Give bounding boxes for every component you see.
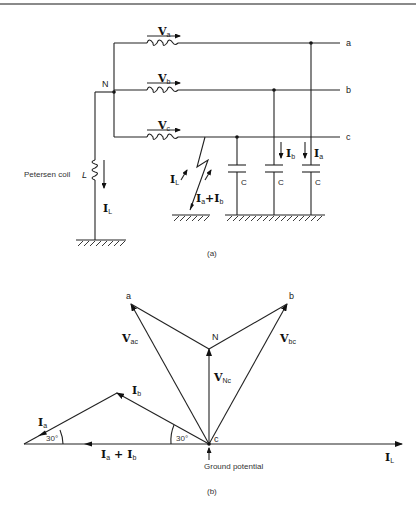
capacitor-2-label: C <box>278 178 284 187</box>
il-label: IL <box>385 451 394 464</box>
caption-b: (b) <box>207 487 217 496</box>
phase-a-label: a <box>346 38 351 48</box>
n-to-a-line <box>131 304 209 349</box>
angle-right-label: 30° <box>176 434 188 443</box>
coil-current-label: IL <box>103 202 112 215</box>
vac-label: Vac <box>121 332 138 345</box>
angle-arc-right <box>171 425 174 444</box>
phase-b-winding-icon <box>147 87 178 93</box>
point-c-label: c <box>214 434 219 444</box>
cap-current-ib-label: Ib <box>286 147 295 160</box>
circuit-schematic: N a b c Va Vb Vc Petersen coil L IL IL I… <box>24 25 351 258</box>
vc-label: Vc <box>157 119 171 132</box>
neutral-label: N <box>102 79 109 89</box>
fault-current-il-label: IL <box>170 173 179 186</box>
ib-label: Ib <box>132 384 141 397</box>
capacitor-2 <box>265 90 283 215</box>
caption-a: (a) <box>207 249 217 258</box>
capacitor-3 <box>302 43 320 215</box>
ia-plus-ib-label: Ia+Ib <box>101 448 136 461</box>
vb-label: Vb <box>157 72 171 85</box>
phase-c-label: c <box>346 132 351 142</box>
petersen-coil-label: Petersen coil <box>24 170 70 179</box>
angle-arc-left <box>60 430 63 444</box>
point-n-label: N <box>212 332 219 342</box>
phase-b-label: b <box>346 85 351 95</box>
capacitor-1 <box>228 137 246 215</box>
petersen-coil-diagram: N a b c Va Vb Vc Petersen coil L IL IL I… <box>0 0 416 514</box>
phase-c-winding-icon <box>147 134 178 140</box>
petersen-coil-icon <box>92 160 98 180</box>
point-b-label: b <box>289 291 294 301</box>
va-label: Va <box>157 25 171 38</box>
ground-potential-label: Ground potential <box>204 462 263 471</box>
vnc-label: VNc <box>213 371 232 384</box>
ia-label: Ia <box>38 416 47 429</box>
angle-left-label: 30° <box>46 434 58 443</box>
vbc-label: Vbc <box>279 332 296 345</box>
capacitor-1-label: C <box>241 178 247 187</box>
point-a-label: a <box>126 291 131 301</box>
n-to-b-line <box>209 304 287 349</box>
phase-a-winding-icon <box>147 40 178 46</box>
coil-symbol-label: L <box>82 170 87 180</box>
cap-current-ia-label: Ia <box>314 147 323 160</box>
phasor-diagram: a b N c Vac Vbc VNc Ia Ib Ia+Ib IL 30° 3… <box>24 291 402 496</box>
capacitor-3-label: C <box>315 178 321 187</box>
fault-current-sum-label: Ia+Ib <box>196 192 223 205</box>
